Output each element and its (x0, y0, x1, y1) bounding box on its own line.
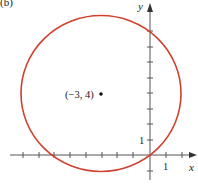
center-label: (−3, 4) (65, 89, 94, 101)
y-axis-label: y (137, 0, 143, 12)
x-tick-label: 1 (163, 161, 168, 172)
panel-label: (b) (0, 0, 13, 9)
x-axis (10, 152, 197, 158)
center-point (99, 92, 103, 96)
x-axis-arrow-icon (189, 152, 197, 158)
x-axis-label: x (188, 161, 194, 173)
circle-figure: (b) y x 1 1 (−3, 4) (0, 0, 198, 184)
y-tick-label: 1 (139, 135, 144, 146)
y-axis-arrow-icon (147, 3, 153, 12)
